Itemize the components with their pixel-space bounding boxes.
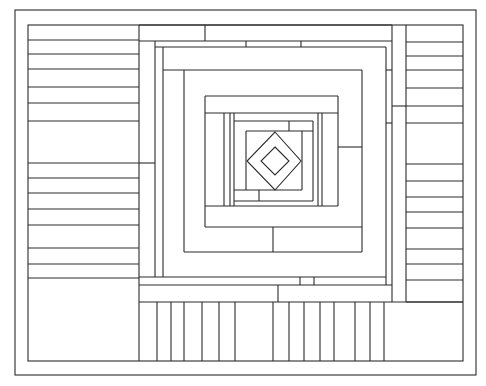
inner-diamond bbox=[261, 147, 289, 175]
bottom-bar-panel bbox=[139, 302, 384, 361]
left-stripe-panel bbox=[28, 40, 139, 278]
right-stripe-panel bbox=[406, 42, 463, 302]
center-diamonds bbox=[247, 132, 301, 190]
outer-diamond bbox=[247, 132, 301, 190]
quilt-line-drawing bbox=[0, 0, 486, 386]
drawing-svg bbox=[0, 0, 486, 386]
